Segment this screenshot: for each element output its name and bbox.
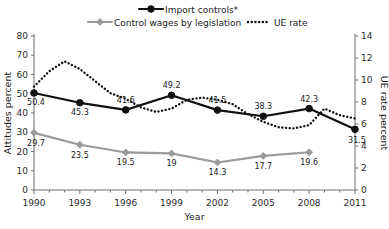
- axis-titles-layer: YearAttitudes percentUE rate percent: [2, 72, 389, 222]
- chart-figure: Import controls*Control wages by legisla…: [0, 0, 389, 229]
- x-axis-tick-label: 2002: [206, 198, 229, 208]
- legend-layer: Import controls*Control wages by legisla…: [88, 5, 308, 28]
- data-point-label: 41.6: [117, 96, 135, 105]
- x-axis-tick-label: 2011: [344, 198, 367, 208]
- legend-label: Control wages by legislation: [114, 18, 241, 28]
- y2-axis-title: UE rate percent: [379, 76, 389, 151]
- data-point: [168, 92, 175, 99]
- right-axis-tick-label: 0: [361, 185, 367, 195]
- data-point-label: 41.5: [209, 96, 227, 105]
- left-axis-tick-label: 0: [22, 185, 28, 195]
- left-axis-tick-label: 10: [17, 166, 29, 176]
- data-point: [214, 159, 221, 166]
- data-point-label: 29.7: [27, 139, 45, 148]
- data-point-label: 38.3: [254, 102, 272, 111]
- data-point-label: 19.6: [300, 158, 318, 167]
- data-point: [306, 149, 313, 156]
- legend-label: Import controls*: [165, 5, 239, 15]
- legend-label: UE rate: [274, 18, 308, 28]
- x-axis-tick-label: 1996: [114, 198, 137, 208]
- x-axis-tick-label: 1993: [68, 198, 91, 208]
- data-point: [76, 141, 83, 148]
- left-axis-tick-label: 70: [17, 50, 29, 60]
- x-axis-tick-label: 1999: [160, 198, 183, 208]
- legend-item: Control wages by legislation: [88, 18, 241, 28]
- data-point-label: 17.7: [254, 162, 272, 171]
- data-point: [122, 107, 129, 114]
- data-point: [260, 113, 267, 120]
- data-point: [31, 129, 38, 136]
- data-point-label: 23.5: [71, 151, 89, 160]
- right-axis-tick-label: 12: [361, 53, 372, 63]
- right-axis-tick-label: 2: [361, 163, 367, 173]
- data-point-label: 49.2: [163, 81, 181, 90]
- axes-layer: 0102030405060708002468101214199019931996…: [17, 31, 373, 208]
- right-axis-tick-label: 8: [361, 97, 367, 107]
- x-axis-tick-label: 2005: [252, 198, 275, 208]
- left-axis-tick-label: 30: [17, 127, 29, 137]
- data-point: [260, 153, 267, 160]
- data-point: [122, 149, 129, 156]
- left-axis-tick-label: 40: [17, 108, 29, 118]
- data-point: [214, 107, 221, 114]
- data-point: [77, 99, 84, 106]
- left-axis-tick-label: 60: [17, 70, 29, 80]
- left-axis-tick-label: 80: [17, 31, 29, 41]
- right-axis-tick-label: 6: [361, 119, 367, 129]
- x-axis-tick-label: 1990: [23, 198, 46, 208]
- legend-swatch-marker: [148, 6, 155, 13]
- data-point: [306, 105, 313, 112]
- legend-item: Import controls*: [139, 5, 239, 15]
- data-point: [168, 150, 175, 157]
- right-axis-tick-label: 14: [361, 31, 373, 41]
- data-point-label: 19.5: [117, 158, 135, 167]
- data-point-label: 31.5: [348, 136, 366, 145]
- dual-axis-line-chart: Import controls*Control wages by legisla…: [0, 0, 389, 229]
- left-axis-tick-label: 20: [17, 147, 29, 157]
- data-point-label: 50.4: [27, 98, 45, 107]
- data-point-label: 19: [166, 159, 176, 168]
- data-point-label: 42.3: [300, 95, 318, 104]
- x-axis-title: Year: [183, 211, 204, 222]
- y-axis-title: Attitudes percent: [2, 72, 13, 155]
- legend-item: UE rate: [248, 18, 308, 28]
- legend-swatch-marker: [97, 19, 104, 26]
- data-point: [31, 90, 38, 97]
- data-point-label: 14.3: [209, 168, 227, 177]
- point-labels-layer: 50.445.341.649.241.538.342.331.529.723.5…: [27, 81, 366, 177]
- right-axis-tick-label: 10: [361, 75, 373, 85]
- data-point: [352, 126, 359, 133]
- x-axis-tick-label: 2008: [298, 198, 321, 208]
- data-point-label: 45.3: [71, 108, 89, 117]
